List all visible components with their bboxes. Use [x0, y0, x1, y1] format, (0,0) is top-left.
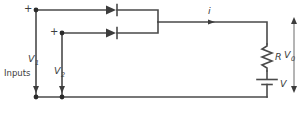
input2-voltage-subscript: 2 [61, 71, 65, 79]
resistor-label: R [275, 51, 282, 62]
input-branch-2 [60, 22, 158, 97]
input2-polarity-label: + [50, 26, 58, 37]
wire-junction-to-resistor [158, 22, 267, 44]
bottom-rail-group [34, 95, 267, 100]
inputs-group-label: Inputs [4, 68, 31, 78]
circuit-schematic-canvas: + + V 1 V 2 Inputs i R V V 0 [0, 0, 307, 113]
input-branch-1 [34, 5, 158, 98]
node-input1-bottom [34, 95, 39, 100]
output-voltage-subscript: 0 [291, 55, 295, 63]
input1-voltage-subscript: 1 [35, 59, 39, 67]
diode-2-anode-triangle [106, 29, 116, 38]
input-arrow-v1-head [33, 86, 39, 93]
wire-diode1-to-junction [117, 10, 158, 22]
resistor-R-zigzag [262, 44, 272, 71]
output-arrow-v0-head-down [291, 86, 297, 93]
input-arrow-v2-head [59, 86, 65, 93]
current-label: i [208, 5, 211, 16]
resistor-R [262, 44, 272, 71]
node-input1-top [34, 8, 39, 13]
diode-1 [106, 5, 117, 16]
current-arrow-i [208, 20, 215, 25]
battery-V [257, 71, 277, 97]
wire-diode2-to-junction [117, 22, 158, 33]
output-wire-group [158, 22, 267, 44]
diode-2 [106, 28, 117, 39]
circuit-diagram-figure: + + V 1 V 2 Inputs i R V V 0 [0, 0, 307, 113]
diode-1-anode-triangle [106, 6, 116, 15]
current-arrowhead [208, 20, 215, 25]
source-label: V [280, 78, 288, 89]
node-input2-bottom [60, 95, 65, 100]
node-input2-top [60, 31, 65, 36]
input1-polarity-label: + [24, 3, 32, 14]
output-arrow-v0-head-up [291, 17, 297, 24]
